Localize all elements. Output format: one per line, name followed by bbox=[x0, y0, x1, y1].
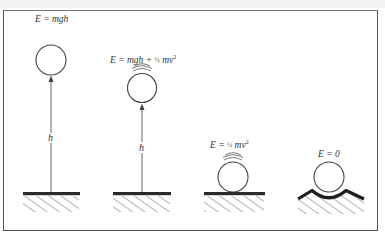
ground-surface bbox=[23, 192, 80, 195]
ball-icon bbox=[36, 45, 66, 75]
ground-surface bbox=[113, 192, 171, 195]
equation-panel-2: E = mgh + ½ mv2 bbox=[109, 54, 176, 65]
ball-icon bbox=[218, 162, 248, 192]
arrowhead-icon bbox=[49, 76, 54, 83]
energy-diagram: E = mgh h E = mgh + ½ mv2 h bbox=[0, 0, 385, 243]
ground-hatch bbox=[204, 196, 264, 212]
height-label: h bbox=[139, 142, 144, 153]
equation-panel-3: E = ½ mv2 bbox=[209, 139, 249, 150]
panel-2: E = mgh + ½ mv2 h bbox=[109, 54, 176, 212]
ball-icon bbox=[314, 162, 344, 192]
panel-4: E = 0 bbox=[296, 149, 366, 214]
equation-panel-1: E = mgh bbox=[34, 14, 69, 24]
ground-hatch bbox=[23, 196, 79, 212]
panel-3: E = ½ mv2 bbox=[204, 139, 265, 212]
ball-icon bbox=[128, 74, 157, 103]
panel-1: E = mgh h bbox=[23, 14, 80, 212]
arrowhead-icon bbox=[140, 104, 145, 111]
equation-panel-4: E = 0 bbox=[317, 149, 340, 159]
height-label: h bbox=[48, 132, 53, 143]
ground-hatch bbox=[113, 196, 170, 212]
ground-surface bbox=[204, 192, 265, 195]
motion-lines-icon bbox=[223, 153, 243, 160]
